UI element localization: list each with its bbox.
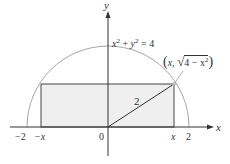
y-axis-label: y <box>104 0 109 11</box>
circle-equation: x2 + y2 = 4 <box>112 38 154 49</box>
tick-label-neg-x: −x <box>34 132 45 142</box>
origin-label: 0 <box>99 132 104 142</box>
tick-label-neg-two: −2 <box>15 132 26 142</box>
y-axis-arrow-icon <box>106 11 111 18</box>
x-axis-label: x <box>216 122 221 133</box>
radicand: 4 − x2 <box>184 55 208 68</box>
radicand-text: 4 − x <box>184 57 205 68</box>
point-leader-line <box>174 71 183 84</box>
point-label: (x, √4 − x2) <box>163 55 213 69</box>
corner-point-marker <box>172 82 176 86</box>
point-close-paren: ) <box>208 54 213 69</box>
eq-plus: + <box>120 38 131 49</box>
eq-rest: = 4 <box>139 38 155 49</box>
tick-label-two: 2 <box>186 132 191 142</box>
radius-label: 2 <box>134 96 140 107</box>
x-axis-arrow-icon <box>207 125 214 130</box>
tick-label-x: x <box>171 132 175 142</box>
semicircle-rectangle-diagram: y x x2 + y2 = 4 (x, √4 − x2) 2 −2 −x 0 x… <box>0 0 230 164</box>
